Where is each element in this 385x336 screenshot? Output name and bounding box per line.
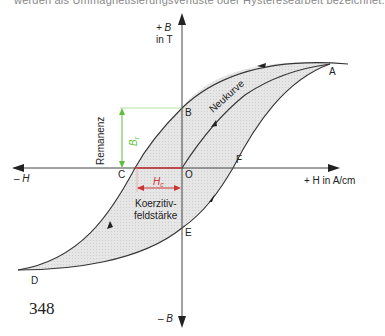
koerzitiv-label-line1: Koerzitiv- — [135, 198, 177, 209]
hysteresis-loop-area — [18, 63, 330, 270]
remanenz-label: Remanenz — [95, 117, 106, 165]
x-pos-label: + H in A/cm — [304, 175, 355, 186]
point-C-label: C — [118, 169, 125, 180]
x-neg-label: – H — [13, 173, 30, 184]
y-pos-label: + B — [156, 22, 172, 33]
y-neg-label: – B — [157, 313, 173, 324]
br-label: Br — [128, 136, 140, 146]
point-A-label: A — [329, 66, 336, 77]
remanenz-arrow-up-icon — [119, 108, 125, 115]
point-B-label: B — [185, 107, 192, 118]
point-D-label: D — [31, 275, 38, 286]
point-E-label: E — [185, 227, 192, 238]
page-number: 348 — [29, 299, 55, 319]
y-pos-unit: in T — [156, 34, 173, 45]
point-F-label: F — [236, 154, 242, 165]
x-axis-pos-arrow-icon — [328, 164, 340, 172]
point-O-label: O — [185, 169, 193, 180]
y-axis-neg-arrow-icon — [178, 316, 186, 328]
x-axis-neg-arrow-icon — [12, 164, 24, 172]
remanenz-arrow-down-icon — [119, 161, 125, 168]
y-axis-pos-arrow-icon — [178, 13, 186, 25]
koerzitiv-label-line2: feldstärke — [134, 210, 178, 221]
